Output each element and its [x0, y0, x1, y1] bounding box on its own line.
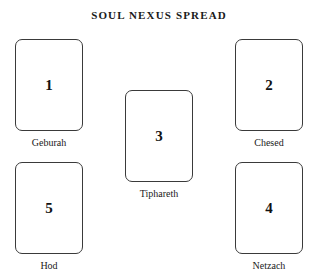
- card-slot-hod: 5 Hod: [15, 162, 83, 272]
- card-4[interactable]: 4: [235, 162, 303, 254]
- card-number-2: 2: [236, 40, 302, 130]
- card-slot-netzach: 4 Netzach: [235, 162, 303, 272]
- card-slot-geburah: 1 Geburah: [15, 39, 83, 149]
- card-number-4: 4: [236, 163, 302, 253]
- card-number-1: 1: [16, 40, 82, 130]
- card-label-4: Netzach: [235, 260, 303, 272]
- card-label-5: Hod: [15, 260, 83, 272]
- card-1[interactable]: 1: [15, 39, 83, 131]
- card-label-2: Chesed: [235, 137, 303, 149]
- card-5[interactable]: 5: [15, 162, 83, 254]
- card-slot-tiphareth: 3 Tiphareth: [125, 90, 193, 200]
- card-label-1: Geburah: [15, 137, 83, 149]
- card-slot-chesed: 2 Chesed: [235, 39, 303, 149]
- card-number-3: 3: [126, 91, 192, 181]
- card-label-3: Tiphareth: [125, 188, 193, 200]
- card-number-5: 5: [16, 163, 82, 253]
- page-title: SOUL NEXUS SPREAD: [0, 9, 318, 22]
- card-3[interactable]: 3: [125, 90, 193, 182]
- card-2[interactable]: 2: [235, 39, 303, 131]
- tarot-spread-canvas: SOUL NEXUS SPREAD 1 Geburah 2 Chesed 3 T…: [0, 0, 318, 279]
